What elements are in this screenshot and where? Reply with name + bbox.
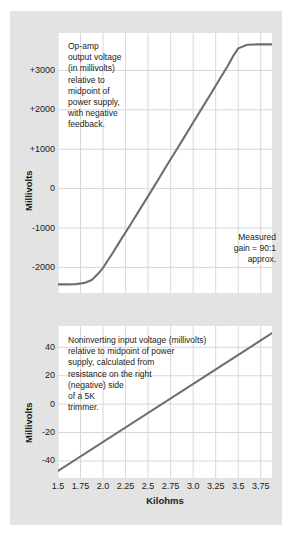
x-axis-tick-labels: 1.51.752.02.252.52.753.03.253.53.75	[58, 481, 272, 493]
x-axis-title: Kilohms	[58, 495, 272, 506]
x-tick-label: 2.75	[162, 481, 180, 491]
y-tick-label: 20	[45, 371, 55, 380]
x-tick-label: 2.5	[142, 481, 155, 491]
y-tick-label: +1000	[30, 145, 55, 154]
top-chart-y-tick-labels: +3000+2000+10000-1000-2000	[10, 33, 55, 293]
x-tick-label: 1.5	[52, 481, 65, 491]
x-tick-label: 1.75	[72, 481, 90, 491]
x-tick-label: 2.0	[97, 481, 110, 491]
top-chart-y-axis-title: Millivolts	[23, 170, 34, 211]
y-tick-label: +2000	[30, 105, 55, 114]
x-tick-label: 3.0	[187, 481, 200, 491]
figure-panel: +3000+2000+10000-1000-2000 Millivolts Op…	[10, 11, 282, 525]
y-tick-label: 0	[50, 400, 55, 409]
bottom-chart-annotation-description: Noninverting input voltage (millivolts) …	[68, 335, 268, 413]
top-chart-annotation-gain: Measured gain = 90:1 approx.	[188, 232, 276, 266]
x-tick-label: 3.25	[207, 481, 225, 491]
y-tick-label: -2000	[32, 263, 55, 272]
bottom-chart-y-axis-title: Millivolts	[23, 402, 34, 443]
y-tick-label: 0	[50, 184, 55, 193]
x-tick-label: 2.25	[117, 481, 135, 491]
y-tick-label: 40	[45, 343, 55, 352]
y-tick-label: +3000	[30, 66, 55, 75]
y-tick-label: -1000	[32, 224, 55, 233]
x-tick-label: 3.75	[252, 481, 270, 491]
top-chart-annotation-description: Op-amp output voltage (in millivolts) re…	[68, 41, 173, 131]
x-tick-label: 3.5	[232, 481, 245, 491]
y-tick-label: -40	[42, 456, 55, 465]
y-tick-label: -20	[42, 428, 55, 437]
